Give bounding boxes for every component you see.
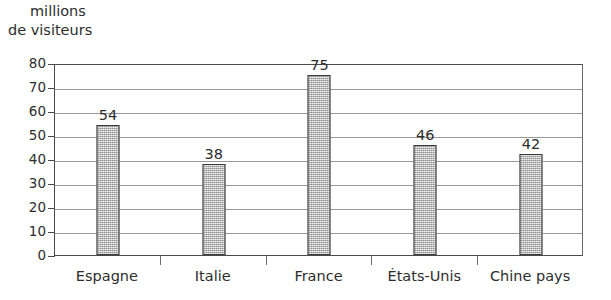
bar-slot: 75 bbox=[267, 65, 373, 255]
bar-slot: 42 bbox=[478, 65, 584, 255]
x-axis-separator bbox=[266, 256, 267, 265]
y-axis-tick-label: 70 bbox=[6, 81, 46, 95]
plot-area: 5438754642 bbox=[54, 64, 583, 256]
x-axis-labels: EspagneItalieFranceÉtats-UnisChine pays bbox=[54, 266, 583, 292]
x-axis-category-label: Italie bbox=[160, 266, 266, 286]
x-axis-separator bbox=[477, 256, 478, 265]
x-axis-separator bbox=[371, 256, 372, 265]
bar-slot: 38 bbox=[161, 65, 267, 255]
y-axis-tick-label: 20 bbox=[6, 201, 46, 215]
bar[interactable] bbox=[520, 154, 543, 255]
y-axis-caption-line-2: de visiteurs bbox=[8, 21, 92, 40]
x-axis-separator bbox=[160, 256, 161, 265]
bar-series: 5438754642 bbox=[55, 65, 582, 255]
bar[interactable] bbox=[202, 164, 225, 255]
y-axis-tick-label: 10 bbox=[6, 225, 46, 239]
bar[interactable] bbox=[308, 75, 331, 255]
bar-value-label: 38 bbox=[204, 147, 222, 162]
x-axis-category-label: France bbox=[266, 266, 372, 286]
y-axis-tick-label: 30 bbox=[6, 177, 46, 191]
y-axis-tick-label: 40 bbox=[6, 153, 46, 167]
bar-value-label: 46 bbox=[416, 128, 434, 143]
bar[interactable] bbox=[96, 125, 119, 255]
y-axis-tick-label: 80 bbox=[6, 57, 46, 71]
y-axis-tick-label: 60 bbox=[6, 105, 46, 119]
bar[interactable] bbox=[414, 145, 437, 255]
x-axis-category-label: Chine pays bbox=[477, 266, 583, 286]
y-axis-caption: millions de visiteurs bbox=[8, 2, 92, 40]
y-axis-tick-label: 0 bbox=[6, 249, 46, 263]
bar-value-label: 42 bbox=[522, 137, 540, 152]
bar-slot: 54 bbox=[55, 65, 161, 255]
y-axis-caption-line-1: millions bbox=[8, 2, 92, 21]
bar-value-label: 75 bbox=[310, 58, 328, 73]
x-axis-category-label: États-Unis bbox=[371, 266, 477, 286]
bar-slot: 46 bbox=[372, 65, 478, 255]
y-axis-tick-label: 50 bbox=[6, 129, 46, 143]
x-axis-category-label: Espagne bbox=[54, 266, 160, 286]
bar-value-label: 54 bbox=[99, 108, 117, 123]
